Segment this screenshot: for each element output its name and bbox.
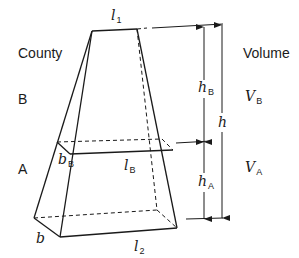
frustum-diagram: County Volume B A l1 bB lB b l2 hB h hA … — [0, 0, 299, 258]
frustum-drawing — [0, 0, 299, 258]
county-a-label: A — [18, 162, 27, 176]
label-h: h — [218, 115, 227, 129]
volume-header: Volume — [243, 46, 290, 60]
county-header: County — [18, 46, 62, 60]
left-front-edge — [60, 31, 92, 237]
label-l1: l1 — [111, 8, 122, 22]
label-VB: VB — [245, 89, 262, 103]
bottom-edge-l2 — [60, 228, 177, 237]
right-front-edge — [137, 29, 177, 228]
label-b: b — [36, 231, 45, 245]
county-b-label: B — [18, 92, 27, 106]
label-hB: hB — [198, 80, 214, 94]
hidden-back-right-edge — [137, 29, 157, 210]
mid-edge-lB — [70, 150, 173, 154]
top-edge-l1 — [92, 29, 137, 31]
label-bB: bB — [58, 152, 74, 166]
hidden-mid-back-edge — [57, 139, 162, 142]
label-l2: l2 — [134, 239, 145, 253]
label-lB: lB — [124, 158, 136, 172]
label-VA: VA — [245, 160, 262, 174]
label-hA: hA — [198, 174, 214, 188]
hidden-bottom-back-edge — [34, 210, 157, 218]
